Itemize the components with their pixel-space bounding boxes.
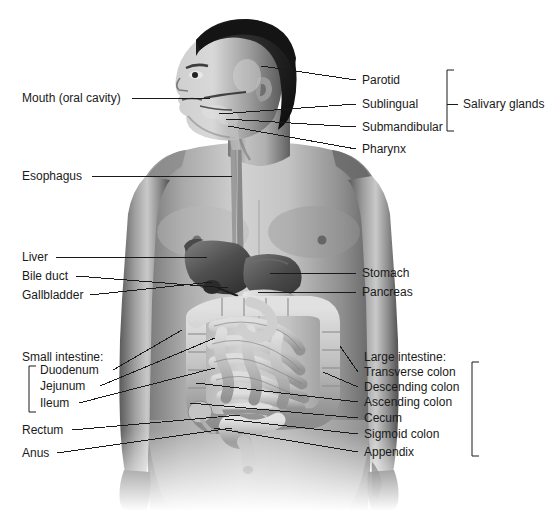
label-cecum[interactable]: Cecum (364, 412, 402, 425)
label-jejunum[interactable]: Jejunum (40, 380, 85, 393)
group-label-salivary-glands: Salivary glands (463, 98, 544, 111)
label-liver[interactable]: Liver (22, 251, 48, 264)
label-ileum[interactable]: Ileum (40, 397, 69, 410)
digestive-system-diagram: Mouth (oral cavity) Esophagus Liver Bile… (0, 0, 559, 511)
label-pancreas[interactable]: Pancreas (362, 286, 413, 299)
label-mouth[interactable]: Mouth (oral cavity) (22, 92, 121, 105)
label-transverse-colon[interactable]: Transverse colon (364, 366, 456, 379)
label-submandibular[interactable]: Submandibular (362, 121, 443, 134)
label-rectum[interactable]: Rectum (22, 424, 63, 437)
label-ascending-colon[interactable]: Ascending colon (364, 396, 452, 409)
label-gallbladder[interactable]: Gallbladder (22, 289, 83, 302)
group-heading-large-intestine: Large intestine: (364, 351, 446, 364)
label-sigmoid-colon[interactable]: Sigmoid colon (364, 428, 439, 441)
label-sublingual[interactable]: Sublingual (362, 98, 418, 111)
label-esophagus[interactable]: Esophagus (22, 170, 82, 183)
label-anus[interactable]: Anus (22, 447, 49, 460)
label-appendix[interactable]: Appendix (364, 446, 414, 459)
label-bile-duct[interactable]: Bile duct (22, 270, 68, 283)
label-descending-colon[interactable]: Descending colon (364, 381, 459, 394)
label-parotid[interactable]: Parotid (362, 74, 400, 87)
label-pharynx[interactable]: Pharynx (362, 143, 406, 156)
label-duodenum[interactable]: Duodenum (40, 364, 99, 377)
label-stomach[interactable]: Stomach (362, 267, 409, 280)
human-figure-illustration (0, 0, 559, 511)
